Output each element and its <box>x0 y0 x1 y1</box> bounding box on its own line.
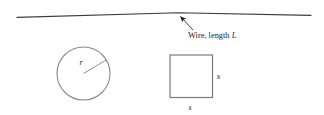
wire-label-prefix: Wire, length <box>188 31 232 40</box>
diagram-svg: Wire, length L r s s <box>0 0 324 115</box>
circle-radius-line <box>84 60 107 74</box>
wire-line <box>17 13 311 18</box>
wire-label-variable: L <box>231 31 237 40</box>
wire-callout-arrow <box>181 17 194 31</box>
figure-canvas: Wire, length L r s s <box>0 0 324 115</box>
square-side-label-right: s <box>217 72 220 81</box>
circle-radius-label: r <box>80 58 84 67</box>
wire-label: Wire, length L <box>188 31 237 40</box>
square-shape <box>170 55 213 98</box>
square-side-label-bottom: s <box>189 103 192 112</box>
